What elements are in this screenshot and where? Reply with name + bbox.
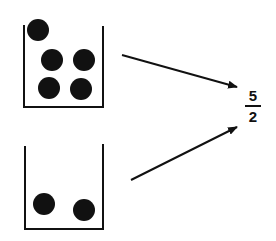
bottom-container: [25, 144, 103, 229]
ball: [73, 49, 95, 71]
ball: [41, 49, 63, 71]
ball: [27, 19, 49, 41]
arrow-top: [122, 55, 237, 87]
ball: [38, 77, 60, 99]
fraction-bar: [245, 105, 261, 107]
ball: [73, 199, 95, 221]
ratio-fraction: 5 2: [244, 88, 262, 125]
ball: [70, 78, 92, 100]
ball: [33, 193, 55, 215]
diagram-canvas: [0, 0, 276, 241]
ratio-denominator: 2: [244, 109, 262, 125]
top-container: [24, 19, 103, 107]
arrow-bottom: [131, 127, 237, 180]
ratio-numerator: 5: [244, 88, 262, 104]
